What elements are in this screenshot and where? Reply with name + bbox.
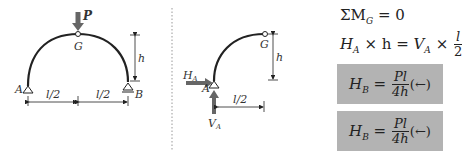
span-label: l/2 (233, 93, 247, 106)
arch-diagram-full (23, 12, 140, 106)
load-label: P (82, 9, 93, 23)
load-arrow-icon (72, 23, 84, 31)
height-label: h (138, 52, 145, 65)
vertical-reaction-arrow-icon (209, 90, 219, 98)
pin-support-a-icon (23, 86, 33, 93)
height-label: h (276, 51, 283, 64)
support-a-label: A (14, 83, 23, 96)
equilibrium-equation: HA × h = VA × l2 (340, 30, 463, 59)
result-box-2: HB = Pl4h(←) (337, 111, 443, 151)
hinge-label: G (74, 40, 83, 53)
load-arrow-shaft (76, 12, 81, 24)
support-a-label: A (201, 82, 210, 95)
moment-equation: ΣMG = 0 (340, 6, 405, 26)
span-left-label: l/2 (46, 88, 60, 101)
hinge-label: G (260, 38, 269, 51)
result-box-1: HB = Pl4h(←) (337, 64, 443, 104)
hinge-g-icon (263, 32, 268, 37)
vertical-reaction-label: VA (208, 117, 221, 131)
span-right-label: l/2 (96, 88, 110, 101)
roller-support-b-icon (123, 83, 133, 90)
half-arch-curve (214, 34, 264, 81)
horizontal-reaction-label: HA (182, 69, 198, 83)
support-b-label: B (134, 88, 143, 101)
hinge-g-icon (76, 32, 81, 37)
